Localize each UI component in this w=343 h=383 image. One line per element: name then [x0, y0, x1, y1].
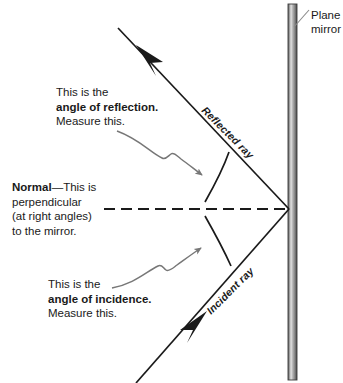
reflection-pointer-arrow: [117, 131, 202, 175]
angle-of-incidence-arc: [205, 216, 231, 266]
normal-note-line2: perpendicular: [12, 195, 96, 210]
angle-of-reflection-note: This is the angle of reflection. Measure…: [56, 85, 158, 129]
incidence-note-line2: angle of incidence.: [48, 292, 152, 307]
incident-ray-arrowhead: [180, 311, 207, 343]
plane-mirror-label: Plane mirror: [311, 8, 341, 36]
reflection-note-line3: Measure this.: [56, 114, 158, 129]
incidence-note-line3: Measure this.: [48, 306, 152, 321]
plane-mirror-label-line1: Plane: [311, 8, 341, 22]
incident-ray: [136, 209, 289, 383]
plane-mirror-label-line2: mirror: [311, 22, 341, 36]
mirror-bar: [288, 4, 297, 380]
normal-note-keyword: Normal: [12, 181, 52, 193]
reflection-note-line2: angle of reflection.: [56, 100, 158, 115]
reflection-note-line1: This is the: [56, 85, 158, 100]
reflection-diagram: Plane mirror This is the angle of reflec…: [0, 0, 343, 383]
normal-note-line1-rest: —This is: [52, 181, 97, 193]
normal-note-line3: (at right angles): [12, 209, 96, 224]
plane-mirror: [288, 4, 297, 380]
incident-ray-line: [136, 209, 289, 383]
normal-note: Normal—This is perpendicular (at right a…: [12, 180, 96, 238]
normal-note-line1: Normal—This is: [12, 180, 96, 195]
normal-note-line4: to the mirror.: [12, 224, 96, 239]
angle-of-reflection-arc: [205, 152, 229, 202]
angle-of-incidence-note: This is the angle of incidence. Measure …: [48, 277, 152, 321]
incidence-note-line1: This is the: [48, 277, 152, 292]
